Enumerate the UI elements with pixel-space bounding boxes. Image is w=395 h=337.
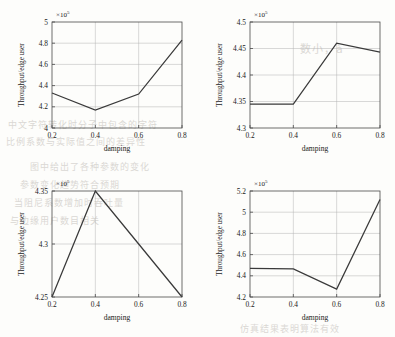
chart-panel-top-right: 4.34.354.44.454.50.20.40.60.8×105damping… [198,0,395,169]
x-axis-title: damping [104,313,131,322]
x-axis-title: damping [301,313,328,322]
y-tick-label: 4.6 [236,250,246,259]
x-tick-label: 0.4 [288,300,298,309]
y-tick-label: 5 [44,18,48,27]
x-tick-label: 0.4 [91,131,101,140]
y-tick-label: 4.45 [233,44,246,53]
y-tick-label: 4.4 [236,71,246,80]
y-tick-label: 4.4 [39,81,49,90]
axis-multiplier: ×105 [56,179,70,188]
y-tick-label: 4.2 [39,102,49,111]
plot-box [250,191,380,297]
y-tick-label: 5 [242,207,246,216]
x-tick-label: 0.6 [332,131,342,140]
x-tick-label: 0.4 [288,131,298,140]
y-tick-label: 5.2 [236,186,246,195]
x-axis-title: damping [104,144,131,153]
figure-panel-grid: 44.24.44.64.850.20.40.60.8×105dampingThr… [0,0,395,337]
chart-svg-bottom-right: 4.24.44.64.855.20.20.40.60.8×105dampingT… [198,169,395,337]
x-tick-label: 0.2 [245,300,255,309]
y-axis-title: Throughput/edge user [216,43,224,107]
x-tick-label: 0.2 [47,131,57,140]
axis-multiplier: ×105 [254,179,268,188]
axis-multiplier: ×105 [56,10,70,19]
y-tick-label: 4.35 [35,186,48,195]
chart-panel-bottom-left: 4.254.34.350.20.40.60.8×105dampingThroug… [0,169,198,337]
y-axis-title: Throughput/edge user [18,43,26,107]
chart-svg-top-right: 4.34.354.44.454.50.20.40.60.8×105damping… [198,0,395,168]
x-tick-label: 0.8 [177,131,187,140]
x-tick-label: 0.8 [177,300,187,309]
y-tick-label: 4.3 [39,239,49,248]
y-axis-title: Throughput/edge user [18,211,26,275]
x-tick-label: 0.2 [245,131,255,140]
x-tick-label: 0.2 [47,300,57,309]
chart-svg-top-left: 44.24.44.64.850.20.40.60.8×105dampingThr… [0,0,197,168]
x-tick-label: 0.6 [134,131,144,140]
y-tick-label: 4.8 [39,39,49,48]
chart-svg-bottom-left: 4.254.34.350.20.40.60.8×105dampingThroug… [0,169,197,337]
y-tick-label: 4.5 [236,18,246,27]
x-tick-label: 0.6 [134,300,144,309]
plot-box [52,22,182,128]
chart-panel-bottom-right: 4.24.44.64.855.20.20.40.60.8×105dampingT… [198,169,395,337]
axis-multiplier: ×105 [254,10,268,19]
y-tick-label: 4.35 [233,97,246,106]
chart-panel-top-left: 44.24.44.64.850.20.40.60.8×105dampingThr… [0,0,198,169]
data-series-line [250,43,380,104]
x-tick-label: 0.8 [375,300,385,309]
y-tick-label: 4.8 [236,229,246,238]
x-tick-label: 0.4 [91,300,101,309]
x-tick-label: 0.6 [332,300,342,309]
x-tick-label: 0.8 [375,131,385,140]
x-axis-title: damping [301,144,328,153]
data-series-line [52,40,182,110]
y-tick-label: 4.25 [35,292,48,301]
y-tick-label: 4.4 [236,271,246,280]
y-tick-label: 4.6 [39,60,49,69]
y-axis-title: Throughput/edge user [216,211,224,275]
